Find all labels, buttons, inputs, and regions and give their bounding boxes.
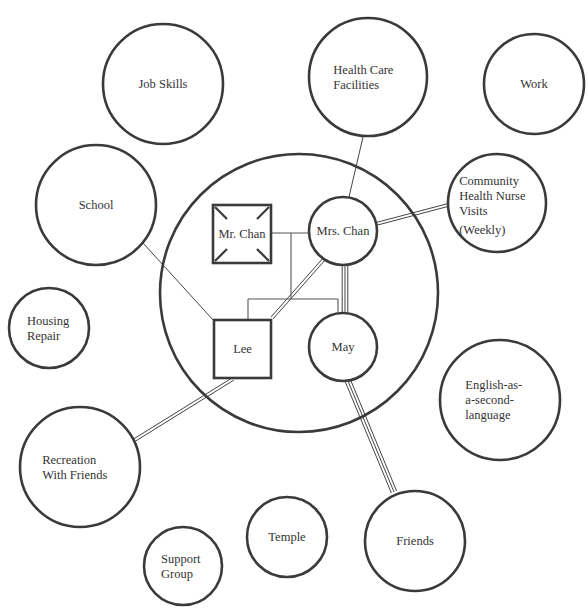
system-label: With Friends [42,468,107,482]
system-node-school: School [36,145,156,265]
system-label: (Weekly) [459,223,505,237]
system-node-job_skills: Job Skills [103,24,223,144]
family-member-mrs_chan: Mrs. Chan [309,197,377,265]
ecomap-diagram: Job SkillsHealth CareFacilitiesWorkSchoo… [0,0,588,612]
connection-strand [348,381,394,492]
connection-lee-recreation [132,378,233,442]
system-label: Housing [27,314,70,328]
system-node-work: Work [484,34,584,134]
system-label: a-second- [465,393,514,407]
family-boundary-circle [160,154,438,432]
system-label: Job Skills [139,77,188,91]
connection-strand [273,259,326,319]
external-systems: Job SkillsHealth CareFacilitiesWorkSchoo… [9,18,584,605]
system-label: language [465,408,511,422]
system-node-chn: CommunityHealth NurseVisits(Weekly) [448,154,546,252]
connection-strand [132,378,232,440]
system-label: School [79,198,114,212]
system-node-esl: English-as-a-second-language [440,340,560,460]
connection-strand [134,380,234,442]
connection-strand [351,380,397,491]
connection-mrs_chan-lee [271,257,326,319]
system-label: Work [520,77,548,91]
system-node-housing: HousingRepair [9,288,89,368]
system-node-support: SupportGroup [144,527,222,605]
connection-mrs_chan-may [342,265,348,313]
connection-may-friends [345,380,396,493]
system-label: Recreation [42,453,97,467]
family-members: Mr. ChanMrs. ChanLeeMay [213,197,377,381]
connection-strand [376,206,448,225]
system-label: Repair [27,329,61,343]
system-label: Group [161,567,193,581]
member-label: Mr. Chan [218,227,266,241]
system-label: Health Nurse [459,189,526,203]
system-label: English-as- [465,378,522,392]
family-member-may: May [309,313,377,381]
connection-mrs_chan-chn [376,204,449,226]
system-label: Temple [268,530,306,544]
family-member-lee: Lee [214,320,271,378]
connection-lines [132,137,448,493]
system-node-recreation: RecreationWith Friends [20,407,140,527]
member-label: May [332,340,356,354]
connection-strand [345,382,391,493]
connection-school-lee [143,243,214,321]
system-label: Friends [396,534,434,548]
system-label: Health Care [333,63,393,77]
system-label: Support [161,552,201,566]
system-node-friends: Friends [365,491,465,591]
system-node-health_care: Health CareFacilities [309,18,427,136]
system-node-temple: Temple [247,497,327,577]
connection-strand [143,243,214,321]
connection-strand [271,257,324,317]
member-label: Mrs. Chan [317,224,371,238]
system-label: Community [459,174,519,188]
system-label: Visits [459,204,488,218]
member-label: Lee [233,342,252,356]
family-member-mr_chan: Mr. Chan [213,205,271,263]
system-label: Facilities [333,78,379,92]
